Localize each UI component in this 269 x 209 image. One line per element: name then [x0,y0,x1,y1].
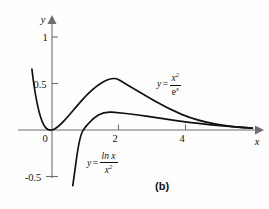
label1-denominator-exp: x [176,85,179,92]
label2-lhs: y [87,159,91,169]
x-tick-label-4: 4 [179,133,185,144]
curve-label-x2-over-ex: y = x2 ex [157,72,181,98]
label2-fraction: ln x x2 [100,152,118,176]
plot-canvas: 2 4 1 0.5 0 -0.5 x y [0,0,269,209]
label1-numerator: x2 [170,72,181,85]
x-axis-arrow-icon [255,126,264,135]
label2-numerator-base: ln x [102,151,116,161]
y-axis [46,15,58,178]
label1-numerator-exp: 2 [176,71,179,78]
label1-denominator: ex [170,86,181,99]
y-tick-label-1: 1 [42,32,47,43]
y-tick-label-0point5: 0.5 [33,79,46,90]
label2-numerator: ln x [100,152,118,162]
y-tick-label-minus0point5: -0.5 [25,172,42,183]
label2-denominator: x2 [103,163,114,176]
label2-equals: = [93,159,98,169]
curve-label-lnx-over-x2: y = ln x x2 [87,152,118,176]
figure-panel-b: 2 4 1 0.5 0 -0.5 x y y = x2 ex y = [0,0,269,209]
x-axis-name: x [254,136,260,147]
y-axis-name: y [40,14,46,25]
curve-x2-over-ex [32,69,252,130]
figure-caption: (b) [155,180,169,192]
origin-label: 0 [42,133,47,144]
label1-equals: = [163,80,168,90]
label1-fraction: x2 ex [170,72,181,98]
y-axis-arrow-icon [48,15,57,24]
label2-denominator-exp: 2 [109,163,112,170]
x-tick-label-2: 2 [112,133,117,144]
label1-lhs: y [157,80,161,90]
